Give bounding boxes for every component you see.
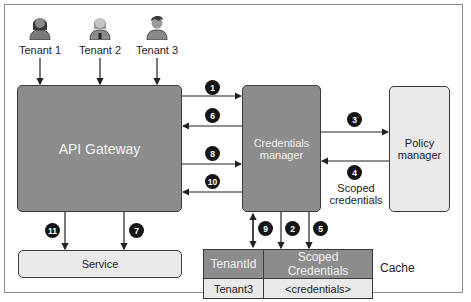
cell-credentials: <credentials>	[264, 279, 373, 299]
scoped-label-line-2: credentials	[326, 194, 386, 206]
step-11-badge: 11	[45, 223, 60, 238]
step-3-badge: 3	[347, 112, 362, 127]
header-scoped-credentials: Scoped Credentials	[264, 250, 373, 279]
cache-table-header: TenantId Scoped Credentials	[204, 250, 373, 279]
step-6-badge: 6	[205, 108, 220, 123]
cell-tenantid: Tenant3	[204, 279, 264, 299]
scoped-credentials-label: Scoped credentials	[326, 182, 386, 206]
step-5-badge: 5	[313, 221, 328, 236]
step-8-badge: 8	[205, 146, 220, 161]
cache-label: Cache	[380, 262, 415, 274]
step-9-badge: 9	[258, 221, 273, 236]
header-tenantid: TenantId	[204, 250, 264, 279]
step-2-badge: 2	[285, 221, 300, 236]
step-1-badge: 1	[205, 80, 220, 95]
scoped-label-line-1: Scoped	[326, 182, 386, 194]
step-4-badge: 4	[347, 165, 362, 180]
step-10-badge: 10	[205, 174, 220, 189]
step-7-badge: 7	[129, 223, 144, 238]
cache-table: TenantId Scoped Credentials Tenant3 <cre…	[203, 249, 373, 299]
table-row: Tenant3 <credentials>	[204, 279, 373, 299]
